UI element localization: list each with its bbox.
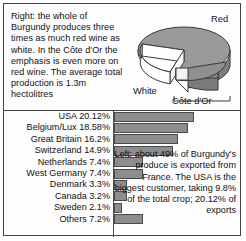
bar-label: Belgium/Lux 18.58%: [4, 122, 110, 133]
bar-label: Switzerland 14.9%: [4, 145, 110, 156]
bar-row: USA 20.12%: [4, 111, 240, 122]
export-note-caption: Left: about 49% of Burgundy's produce is…: [114, 149, 236, 217]
bar-label: Sweden 2.1%: [4, 202, 110, 213]
bar-label: West Germany 7.4%: [4, 168, 110, 179]
bar: [114, 112, 194, 122]
bar-row: Belgium/Lux 18.58%: [4, 122, 240, 133]
pie-chart-panel: Right: the whole of Burgundy produces th…: [4, 4, 240, 110]
bar-row: Great Britain 16.2%: [4, 134, 240, 145]
pie-label-red: Red: [211, 14, 228, 24]
pie-label-cote-dor: Côte d'Or: [172, 96, 212, 106]
bar-label: USA 20.12%: [4, 111, 110, 122]
figure-frame: Right: the whole of Burgundy produces th…: [3, 3, 241, 236]
pie-label-white: White: [133, 86, 157, 96]
bar-label: Great Britain 16.2%: [4, 134, 110, 145]
bar-label: Canada 3.2%: [4, 191, 110, 202]
intro-caption: Right: the whole of Burgundy produces th…: [11, 11, 127, 101]
bar-label: Denmark 3.3%: [4, 179, 110, 190]
bar-label: Others 7.2%: [4, 214, 110, 225]
bar: [114, 134, 178, 144]
bar-chart-panel: USA 20.12% Belgium/Lux 18.58% Great Brit…: [4, 111, 240, 237]
bar-label: Netherlands 7.4%: [4, 157, 110, 168]
bar: [114, 123, 188, 133]
